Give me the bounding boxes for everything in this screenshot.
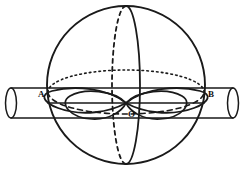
point-label-o: O xyxy=(128,110,135,119)
point-label-a: A xyxy=(38,90,45,99)
sphere-outline-circle xyxy=(47,6,205,164)
rod-right-cap-ellipse xyxy=(228,88,239,118)
lemniscate-group xyxy=(44,88,207,113)
point-label-b: B xyxy=(208,90,214,99)
inner-oval-right-path xyxy=(126,91,187,119)
meridian-back-half-dashed xyxy=(112,6,126,164)
figure-canvas: A B O xyxy=(0,0,252,183)
equator-ellipse-group xyxy=(48,70,204,114)
inner-oval-left-path xyxy=(65,91,126,119)
meridian-front-half-solid xyxy=(126,6,140,164)
rod-left-cap-ellipse xyxy=(6,88,17,118)
meridian-ellipse-group xyxy=(112,6,140,164)
inner-oval-group xyxy=(65,91,186,119)
